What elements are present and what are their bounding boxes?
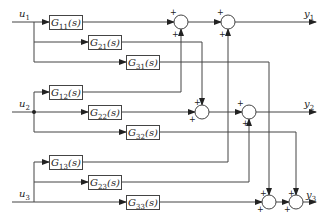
plus-sign: + [257, 206, 264, 214]
plus-sign: + [170, 9, 177, 17]
plus-sign: + [288, 190, 295, 198]
block-diagram: u1 u2 u3 y1 y2 y3 G11(s) G21(s) G31(s) G… [0, 0, 323, 222]
plus-sign: + [189, 116, 196, 124]
sum-junction-2 [221, 15, 235, 29]
block-g12: G12(s) [49, 85, 83, 100]
branch-point [32, 110, 36, 114]
block-g11: G11(s) [49, 15, 83, 30]
block-g22: G22(s) [88, 105, 122, 120]
plus-sign: + [242, 120, 249, 128]
plus-sign: + [172, 31, 179, 39]
block-g32: G32(s) [126, 125, 160, 140]
input-label-u2: u2 [19, 99, 30, 113]
output-label-y2: y2 [304, 99, 314, 113]
plus-sign: + [194, 99, 201, 107]
sum-junction-3 [195, 105, 209, 119]
sum-junction-4 [242, 105, 256, 119]
block-g33: G33(s) [126, 195, 160, 210]
plus-sign: + [217, 9, 224, 17]
block-g31: G31(s) [126, 55, 160, 70]
input-label-u3: u3 [19, 189, 30, 203]
block-g21: G21(s) [88, 35, 122, 50]
plus-sign: + [260, 190, 267, 198]
sum-junction-1 [174, 15, 188, 29]
output-label-y1: y1 [304, 9, 314, 23]
plus-sign: + [237, 100, 244, 108]
block-g23: G23(s) [88, 175, 122, 190]
output-label-y3: y3 [306, 190, 316, 204]
input-label-u1: u1 [19, 9, 30, 23]
plus-sign: + [284, 206, 291, 214]
plus-sign: + [219, 31, 226, 39]
signal-lines [0, 0, 323, 222]
block-g13: G13(s) [49, 155, 83, 170]
